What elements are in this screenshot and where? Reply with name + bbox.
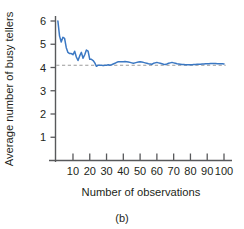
figure-caption: (b) (115, 212, 128, 224)
x-tick-label-20: 20 (84, 165, 96, 177)
y-axis-title: Average number of busy tellers (3, 11, 15, 166)
x-tick-label-50: 50 (134, 165, 146, 177)
x-tick-label-70: 70 (168, 165, 180, 177)
x-tick-label-60: 60 (151, 165, 163, 177)
y-tick-label-3: 3 (40, 85, 46, 97)
y-tick-label-1: 1 (40, 131, 46, 143)
x-tick-label-80: 80 (184, 165, 196, 177)
y-tick-label-4: 4 (40, 62, 46, 74)
x-tick-label-100: 100 (215, 165, 233, 177)
y-tick-label-5: 5 (40, 38, 46, 50)
x-tick-label-40: 40 (117, 165, 129, 177)
y-tick-label-2: 2 (40, 108, 46, 120)
y-tick-label-6: 6 (40, 15, 46, 27)
figure-panel: 123456 102030405060708090100 Average num… (0, 0, 244, 229)
x-tick-label-30: 30 (100, 165, 112, 177)
x-axis-title: Number of observations (82, 186, 201, 198)
x-tick-label-90: 90 (201, 165, 213, 177)
x-tick-label-10: 10 (67, 165, 79, 177)
line-chart: 123456 102030405060708090100 Average num… (0, 0, 244, 229)
